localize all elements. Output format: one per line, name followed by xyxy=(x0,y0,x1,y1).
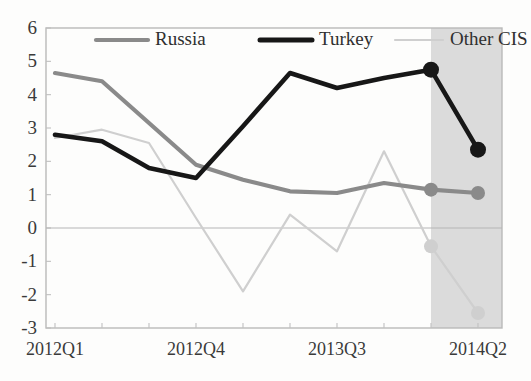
y-axis-label: 3 xyxy=(28,117,38,138)
series-line-other-cis xyxy=(55,130,478,313)
y-axis-labels: 6543210-1-2-3 xyxy=(21,17,37,338)
marker-turkey xyxy=(470,142,486,158)
line-chart: 6543210-1-2-3 2012Q12012Q42013Q32014Q2 R… xyxy=(0,0,531,381)
legend-label-russia: Russia xyxy=(155,28,206,49)
marker-russia xyxy=(424,183,438,197)
forecast-shading-rect xyxy=(431,28,502,328)
y-axis-label: 1 xyxy=(28,184,38,205)
forecast-shading xyxy=(431,28,502,328)
series-line-turkey xyxy=(55,70,478,178)
marker-other-cis xyxy=(471,306,485,320)
chart-container: 6543210-1-2-3 2012Q12012Q42013Q32014Q2 R… xyxy=(0,0,531,381)
x-axis-label: 2012Q1 xyxy=(26,339,84,359)
x-axis-label: 2012Q4 xyxy=(167,339,225,359)
y-axis-label: 2 xyxy=(28,150,38,171)
marker-russia xyxy=(471,186,485,200)
y-axis-ticks xyxy=(46,28,51,328)
y-axis-label: 4 xyxy=(28,84,38,105)
y-axis-label: -1 xyxy=(21,250,37,271)
y-axis-label: 5 xyxy=(28,50,38,71)
legend-label-other-cis: Other CIS xyxy=(450,28,528,49)
x-axis-label: 2013Q3 xyxy=(308,339,366,359)
x-axis-label: 2014Q2 xyxy=(449,339,507,359)
chart-legend: RussiaTurkeyOther CIS xyxy=(96,28,528,49)
marker-turkey xyxy=(423,62,439,78)
y-axis-label: -3 xyxy=(21,317,37,338)
legend-label-turkey: Turkey xyxy=(319,28,374,49)
y-axis-label: -2 xyxy=(21,284,37,305)
marker-other-cis xyxy=(424,239,438,253)
series-layer xyxy=(55,70,478,313)
y-axis-label: 6 xyxy=(28,17,38,38)
y-axis-label: 0 xyxy=(28,217,38,238)
x-axis-labels: 2012Q12012Q42013Q32014Q2 xyxy=(26,339,507,359)
x-axis-ticks xyxy=(55,323,478,328)
series-line-russia xyxy=(55,73,478,193)
